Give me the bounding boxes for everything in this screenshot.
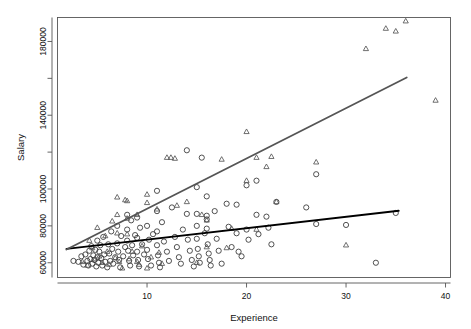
data-point-circle xyxy=(246,237,251,242)
data-point-circle xyxy=(269,242,274,247)
data-point-circle xyxy=(109,229,114,234)
data-point-circle xyxy=(144,223,149,228)
data-point-circle xyxy=(244,183,249,188)
data-point-triangle xyxy=(115,230,120,235)
data-point-triangle xyxy=(264,164,269,169)
data-point-triangle xyxy=(144,192,149,197)
data-point-triangle xyxy=(115,212,120,217)
data-point-circle xyxy=(204,226,209,231)
data-point-circle xyxy=(194,211,199,216)
data-point-triangle xyxy=(125,231,130,236)
data-point-circle xyxy=(219,261,224,266)
data-point-circle xyxy=(166,258,171,263)
data-point-circle xyxy=(161,239,166,244)
data-point-triangle xyxy=(343,242,348,247)
data-point-circle xyxy=(110,246,115,251)
data-point-triangle xyxy=(403,18,408,23)
data-point-circle xyxy=(164,249,169,254)
data-point-triangle xyxy=(110,218,115,223)
data-point-circle xyxy=(134,249,139,254)
x-axis-tick-label: 30 xyxy=(341,291,351,301)
x-axis-tick-label: 40 xyxy=(441,291,451,301)
data-point-circle xyxy=(137,225,142,230)
x-axis-title: Experience xyxy=(230,312,278,323)
data-point-circle xyxy=(121,254,126,259)
x-axis-tick-label: 20 xyxy=(242,291,252,301)
data-point-circle xyxy=(184,148,189,153)
data-point-circle xyxy=(224,201,229,206)
data-point-circle xyxy=(373,260,378,265)
data-point-triangle xyxy=(199,212,204,217)
data-point-triangle xyxy=(363,46,368,51)
data-point-triangle xyxy=(156,250,161,255)
data-point-triangle xyxy=(433,98,438,103)
data-point-circle xyxy=(154,229,159,234)
data-point-circle xyxy=(155,253,160,258)
data-point-circle xyxy=(71,258,76,263)
data-point-circle xyxy=(264,214,269,219)
data-point-triangle xyxy=(174,203,179,208)
data-point-triangle xyxy=(219,157,224,162)
y-axis-title: Salary xyxy=(15,134,26,161)
data-point-circle xyxy=(254,178,259,183)
plot-canvas: 102030406000080000100000140000180000Expe… xyxy=(0,0,471,329)
data-point-circle xyxy=(174,244,179,249)
data-point-triangle xyxy=(144,200,149,205)
data-point-circle xyxy=(102,252,107,257)
data-point-circle xyxy=(234,202,239,207)
data-point-triangle xyxy=(383,26,388,31)
data-point-circle xyxy=(208,263,213,268)
data-point-circle xyxy=(189,257,194,262)
data-point-circle xyxy=(194,236,199,241)
data-point-circle xyxy=(185,237,190,242)
data-point-circle xyxy=(180,227,185,232)
y-axis: 6000080000100000140000180000 xyxy=(39,18,53,278)
data-point-circle xyxy=(204,194,209,199)
data-point-circle xyxy=(314,221,319,226)
data-point-circle xyxy=(314,172,319,177)
x-axis: 10203040 xyxy=(58,283,451,301)
scatter-plot-figure: 102030406000080000100000140000180000Expe… xyxy=(0,0,471,329)
triangle-fit-line xyxy=(66,77,406,249)
plot-frame xyxy=(58,18,451,278)
data-point-triangle xyxy=(115,194,120,199)
data-point-circle xyxy=(212,209,217,214)
y-axis-tick-label: 140000 xyxy=(39,101,49,130)
data-point-triangle xyxy=(184,199,189,204)
data-point-triangle xyxy=(314,159,319,164)
data-point-circle xyxy=(148,263,153,268)
data-point-circle xyxy=(254,212,259,217)
data-point-circle xyxy=(154,243,159,248)
data-point-circle xyxy=(154,188,159,193)
data-point-circle xyxy=(116,249,121,254)
data-point-circle xyxy=(216,248,221,253)
data-point-circle xyxy=(199,155,204,160)
data-point-circle xyxy=(194,223,199,228)
data-point-triangle xyxy=(95,225,100,230)
data-point-circle xyxy=(343,222,348,227)
fit-lines-layer xyxy=(66,77,406,249)
data-point-circle xyxy=(159,220,164,225)
data-point-circle xyxy=(176,255,181,260)
data-point-circle xyxy=(187,248,192,253)
data-point-circle xyxy=(169,205,174,210)
y-axis-tick-label: 100000 xyxy=(39,175,49,204)
data-point-triangle xyxy=(224,245,229,250)
data-point-triangle xyxy=(269,154,274,159)
data-point-circle xyxy=(178,261,183,266)
data-point-circle xyxy=(196,254,201,259)
data-point-circle xyxy=(256,232,261,237)
data-point-triangle xyxy=(393,28,398,33)
data-point-triangle xyxy=(244,178,249,183)
data-point-circle xyxy=(184,211,189,216)
y-axis-tick-label: 180000 xyxy=(39,27,49,56)
data-point-circle xyxy=(195,246,200,251)
data-point-circle xyxy=(239,254,244,259)
data-point-circle xyxy=(214,236,219,241)
data-point-triangle xyxy=(254,155,259,160)
x-axis-tick-label: 10 xyxy=(142,291,152,301)
data-point-circle xyxy=(130,243,135,248)
data-point-circle xyxy=(229,244,234,249)
data-point-circle xyxy=(207,257,212,262)
data-point-triangle xyxy=(244,129,249,134)
